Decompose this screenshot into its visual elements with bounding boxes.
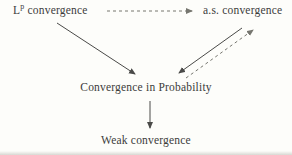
lp-rest-text: convergence xyxy=(24,4,87,16)
edge-lp-to-cip-solid-arrow xyxy=(57,23,135,74)
convergence-diagram: Lp convergence a.s. convergence Converge… xyxy=(0,0,292,155)
node-convergence-in-probability: Convergence in Probability xyxy=(0,81,292,94)
node-lp-convergence: Lp convergence xyxy=(13,4,88,17)
edge-cip-to-as-dashed-arrow xyxy=(186,30,253,78)
arrows-layer xyxy=(0,0,292,155)
node-weak-convergence: Weak convergence xyxy=(0,134,292,147)
node-as-convergence: a.s. convergence xyxy=(203,4,282,17)
edge-as-to-cip-solid-arrow xyxy=(179,28,242,73)
